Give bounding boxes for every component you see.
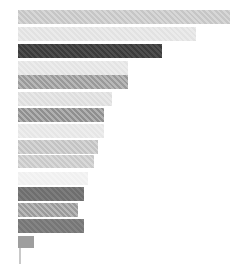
bar-chart bbox=[0, 0, 230, 267]
bar-hatch-pattern bbox=[18, 92, 112, 106]
bar-hatch-pattern bbox=[18, 61, 128, 75]
bar-12 bbox=[18, 187, 84, 201]
bar-15 bbox=[18, 236, 34, 248]
bar-hatch-pattern bbox=[18, 75, 128, 89]
bar-hatch-pattern bbox=[18, 108, 104, 122]
bar-hatch-pattern bbox=[18, 140, 98, 154]
bar-hatch-pattern bbox=[18, 44, 162, 58]
y-axis-line bbox=[19, 248, 21, 264]
bar-13 bbox=[18, 203, 78, 217]
bar-5 bbox=[18, 75, 128, 89]
bar-2 bbox=[18, 27, 196, 41]
bar-6 bbox=[18, 92, 112, 106]
bar-11 bbox=[18, 172, 88, 185]
bar-7 bbox=[18, 108, 104, 122]
bar-hatch-pattern bbox=[18, 203, 78, 217]
bar-hatch-pattern bbox=[18, 10, 230, 24]
bar-hatch-pattern bbox=[18, 155, 94, 168]
bar-hatch-pattern bbox=[18, 219, 84, 233]
bar-14 bbox=[18, 219, 84, 233]
bar-1 bbox=[18, 10, 230, 24]
bar-8 bbox=[18, 124, 104, 138]
bar-hatch-pattern bbox=[18, 124, 104, 138]
bar-3 bbox=[18, 44, 162, 58]
bar-hatch-pattern bbox=[18, 172, 88, 185]
plot-area bbox=[0, 0, 230, 267]
bar-hatch-pattern bbox=[18, 187, 84, 201]
bar-hatch-pattern bbox=[18, 27, 196, 41]
bar-4 bbox=[18, 61, 128, 75]
bar-10 bbox=[18, 155, 94, 168]
bar-9 bbox=[18, 140, 98, 154]
